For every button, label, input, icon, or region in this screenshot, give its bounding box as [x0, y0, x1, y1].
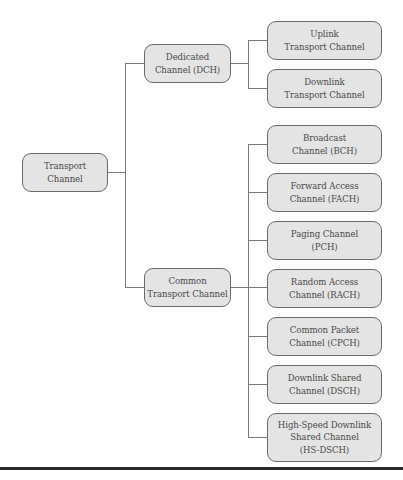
node-broadcast-channel: Broadcast Channel (BCH) — [267, 125, 382, 164]
connector-to-bch — [248, 144, 267, 145]
node-uplink-transport-channel: Uplink Transport Channel — [267, 21, 382, 60]
connector-to-downlink — [248, 88, 267, 89]
connector-to-pch — [248, 240, 267, 241]
node-transport-channel: Transport Channel — [22, 153, 108, 192]
node-dedicated-channel: Dedicated Channel (DCH) — [144, 44, 231, 83]
connector-to-dsch — [248, 384, 267, 385]
connector-to-cpch — [248, 336, 267, 337]
connector-to-fach — [248, 192, 267, 193]
connector-to-dch — [125, 63, 144, 64]
node-common-packet-channel: Common Packet Channel (CPCH) — [267, 317, 382, 356]
node-paging-channel: Paging Channel (PCH) — [267, 221, 382, 260]
connector-root — [107, 172, 125, 173]
connector-dch-out — [230, 63, 248, 64]
node-downlink-transport-channel: Downlink Transport Channel — [267, 69, 382, 108]
connector-dch-trunk — [248, 40, 249, 88]
connector-root-trunk — [125, 63, 126, 288]
node-downlink-shared-channel: Downlink Shared Channel (DSCH) — [267, 365, 382, 404]
connector-common-trunk — [248, 144, 249, 438]
node-common-transport-channel: Common Transport Channel — [144, 268, 231, 307]
connector-to-common — [125, 287, 144, 288]
node-random-access-channel: Random Access Channel (RACH) — [267, 269, 382, 308]
connector-to-hsdsch — [248, 437, 267, 438]
figure-bottom-rule — [0, 467, 403, 470]
node-high-speed-downlink-shared-channel: High-Speed Downlink Shared Channel (HS-D… — [267, 413, 382, 462]
node-forward-access-channel: Forward Access Channel (FACH) — [267, 173, 382, 212]
connector-to-uplink — [248, 40, 267, 41]
